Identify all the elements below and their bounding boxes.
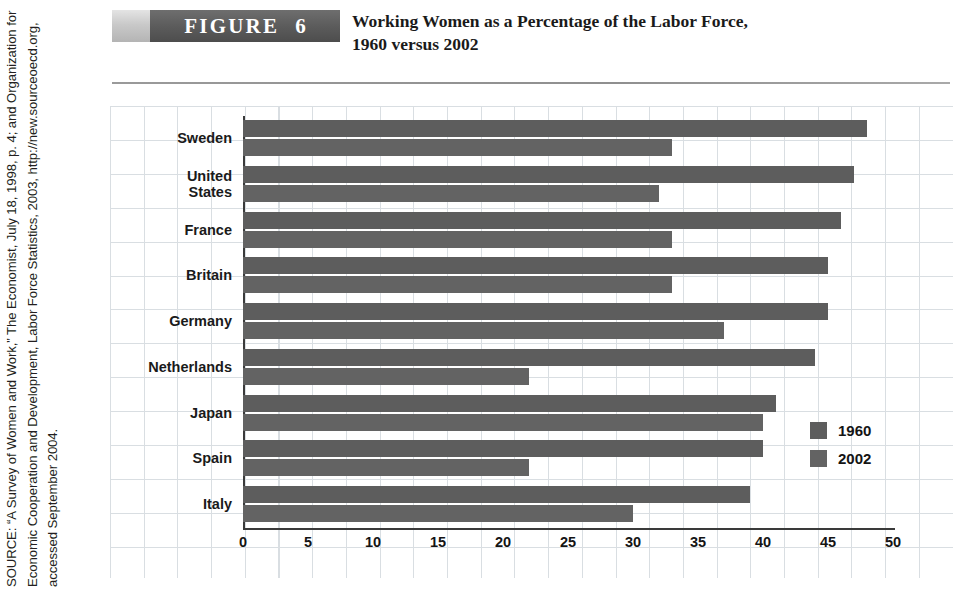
header-divider <box>112 82 950 84</box>
figure-header: FIGURE 6 Working Women as a Percentage o… <box>110 4 950 84</box>
legend-item-2002: 2002 <box>810 450 930 467</box>
legend-label-2002: 2002 <box>838 450 871 467</box>
source-note: SOURCE: “A Survey of Women and Work,” Th… <box>0 0 92 593</box>
x-tick-45: 45 <box>820 534 836 550</box>
legend-label-1960: 1960 <box>838 422 871 439</box>
category-label-united-states: UnitedStates <box>187 168 232 200</box>
figure-number: 6 <box>295 14 306 39</box>
x-tick-10: 10 <box>365 534 381 550</box>
bar-2002-france <box>243 212 841 229</box>
bar-1960-spain <box>243 459 529 476</box>
figure-title-line2: 1960 versus 2002 <box>352 33 952 56</box>
bar-2002-united-states <box>243 166 854 183</box>
category-label-netherlands: Netherlands <box>148 359 232 375</box>
bar-2002-netherlands <box>243 349 815 366</box>
bar-1960-sweden <box>243 139 672 156</box>
figure-accent-block <box>112 10 150 42</box>
bar-2002-japan <box>243 395 776 412</box>
bar-1960-britain <box>243 276 672 293</box>
category-label-sweden: Sweden <box>177 130 232 146</box>
source-note-rotated: SOURCE: “A Survey of Women and Work,” Th… <box>0 0 92 593</box>
source-note-text: SOURCE: “A Survey of Women and Work,” Th… <box>0 0 64 593</box>
category-label-japan: Japan <box>190 405 232 421</box>
x-tick-35: 35 <box>690 534 706 550</box>
legend-swatch-1960 <box>810 422 827 439</box>
bar-1960-united-states <box>243 185 659 202</box>
bar-2002-britain <box>243 257 828 274</box>
category-label-germany: Germany <box>169 313 232 329</box>
bar-2002-italy <box>243 486 750 503</box>
x-tick-15: 15 <box>430 534 446 550</box>
x-tick-50: 50 <box>885 534 901 550</box>
bar-2002-germany <box>243 303 828 320</box>
figure-banner: FIGURE 6 <box>150 10 340 42</box>
bar-1960-italy <box>243 505 633 522</box>
x-tick-25: 25 <box>560 534 576 550</box>
chart-area: SwedenUnitedStatesFranceBritainGermanyNe… <box>110 106 953 578</box>
bar-1960-netherlands <box>243 368 529 385</box>
bar-2002-sweden <box>243 120 867 137</box>
bar-1960-japan <box>243 414 763 431</box>
category-label-spain: Spain <box>193 450 232 466</box>
category-label-france: France <box>184 222 232 238</box>
figure-title: Working Women as a Percentage of the Lab… <box>352 10 952 56</box>
figure-word: FIGURE <box>184 14 279 39</box>
bar-1960-france <box>243 231 672 248</box>
x-tick-5: 5 <box>304 534 312 550</box>
category-label-britain: Britain <box>186 267 232 283</box>
x-axis-line <box>243 528 895 530</box>
legend-swatch-2002 <box>810 450 827 467</box>
category-labels: SwedenUnitedStatesFranceBritainGermanyNe… <box>110 116 238 528</box>
bar-1960-germany <box>243 322 724 339</box>
bars-container <box>243 116 893 528</box>
legend-item-1960: 1960 <box>810 422 930 439</box>
x-tick-0: 0 <box>239 534 247 550</box>
bar-2002-spain <box>243 440 763 457</box>
chart-legend: 1960 2002 <box>810 422 930 478</box>
category-label-italy: Italy <box>203 496 232 512</box>
x-tick-20: 20 <box>495 534 511 550</box>
figure-title-line1: Working Women as a Percentage of the Lab… <box>352 10 952 33</box>
x-tick-40: 40 <box>755 534 771 550</box>
x-tick-30: 30 <box>625 534 641 550</box>
